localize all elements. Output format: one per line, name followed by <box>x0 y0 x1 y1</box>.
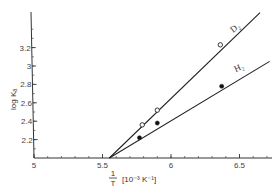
x-tick-label: 6.5 <box>234 161 246 170</box>
y-axis-label: log Kₐ <box>9 88 18 110</box>
data-points <box>137 43 223 140</box>
filled-circle-marker <box>155 121 159 125</box>
axes <box>31 12 272 158</box>
x-label-fraction-numerator: 1 <box>111 169 116 178</box>
y-tick-label: 3.2 <box>20 44 32 53</box>
fit-line-h2 <box>109 61 269 158</box>
open-circle-marker <box>140 123 144 127</box>
series-label-h2: H₂ <box>232 61 245 74</box>
open-circle-marker <box>218 43 222 47</box>
y-tick-label: 2.4 <box>21 117 33 126</box>
fit-line-d2 <box>109 13 260 158</box>
x-axis-label: 1 T [10⁻³ K⁻¹] <box>109 169 156 188</box>
filled-circle-marker <box>137 136 141 140</box>
y-tick-label: 2.2 <box>21 136 33 145</box>
fit-lines <box>109 13 269 158</box>
axis-ticks: 55.566.52.22.42.62.833.2 <box>20 29 267 170</box>
filled-circle-marker <box>220 84 224 88</box>
open-circle-marker <box>155 108 159 112</box>
x-tick-label: 5.5 <box>97 161 109 170</box>
x-label-unit: [10⁻³ K⁻¹] <box>122 175 156 184</box>
y-tick-label: 2.6 <box>21 99 33 108</box>
y-tick-label: 2.8 <box>20 80 32 89</box>
x-label-fraction-denominator: T <box>111 179 116 188</box>
x-tick-label: 6 <box>169 161 174 170</box>
y-tick-label: 3 <box>27 62 32 71</box>
arrhenius-chart: 55.566.52.22.42.62.833.2 D₂ H₂ log Kₐ 1 … <box>0 0 279 193</box>
x-tick-label: 5 <box>32 161 37 170</box>
